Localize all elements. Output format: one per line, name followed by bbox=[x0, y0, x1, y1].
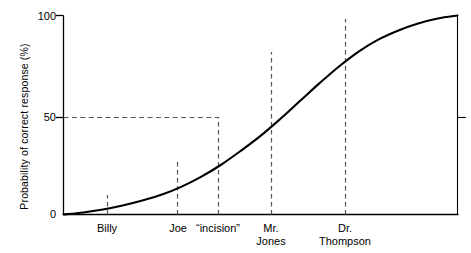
figure-container: Probability of correct response (%) 100 … bbox=[0, 0, 471, 253]
response-curve bbox=[64, 16, 458, 215]
chart-svg bbox=[0, 0, 471, 253]
